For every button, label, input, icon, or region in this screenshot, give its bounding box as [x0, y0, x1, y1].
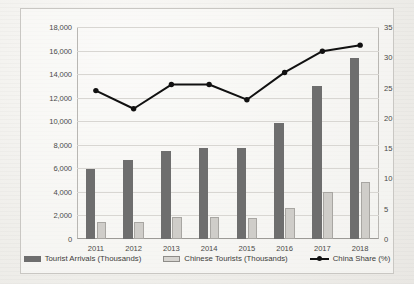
- right-axis-tick-label: 15: [384, 144, 392, 153]
- chart-container: 02,0004,0006,0008,00010,00012,00014,0001…: [20, 8, 394, 274]
- china-share-data-point: [357, 42, 362, 47]
- china-share-data-point: [93, 88, 98, 93]
- china-share-data-point: [244, 97, 249, 102]
- left-axis-tick-label: 2,000: [53, 211, 72, 220]
- right-axis-tick-label: 10: [384, 174, 392, 183]
- light-square-swatch-icon: [163, 256, 180, 262]
- x-axis-tick-label: 2012: [125, 244, 142, 253]
- right-axis-tick-label: 20: [384, 113, 392, 122]
- legend-label-chinese-tourists: Chinese Tourists (Thousands): [184, 254, 287, 263]
- right-axis-tick-label: 35: [384, 23, 392, 32]
- left-axis-tick-label: 0: [68, 235, 72, 244]
- left-axis-tick-label: 8,000: [53, 140, 72, 149]
- left-axis-tick-label: 12,000: [49, 93, 72, 102]
- china-share-polyline: [96, 45, 360, 109]
- legend-item-china-share: China Share (%): [310, 254, 391, 263]
- right-axis-tick-label: 25: [384, 83, 392, 92]
- line-marker-swatch-icon: [310, 255, 329, 262]
- x-axis-tick-label: 2014: [201, 244, 218, 253]
- x-axis-tick-label: 2011: [88, 244, 104, 253]
- chart-legend: Tourist Arrivals (Thousands) Chinese Tou…: [21, 254, 393, 263]
- x-axis-tick-label: 2015: [238, 244, 255, 253]
- right-axis-tick-label: 0: [384, 235, 388, 244]
- right-axis-tick-label: 30: [384, 53, 392, 62]
- china-share-data-point: [131, 106, 136, 111]
- x-axis-tick-label: 2017: [314, 244, 331, 253]
- china-share-data-point: [282, 70, 287, 75]
- left-axis-tick-label: 14,000: [49, 70, 72, 79]
- x-axis-tick-label: 2018: [352, 244, 369, 253]
- china-share-data-point: [320, 49, 325, 54]
- dark-square-swatch-icon: [24, 256, 41, 262]
- left-axis-tick-label: 10,000: [49, 117, 72, 126]
- legend-item-tourist-arrivals: Tourist Arrivals (Thousands): [24, 254, 142, 263]
- legend-label-china-share: China Share (%): [333, 254, 391, 263]
- china-share-line-series: [77, 27, 379, 239]
- left-axis-tick-label: 4,000: [53, 187, 72, 196]
- china-share-data-point: [169, 82, 174, 87]
- x-axis-tick-label: 2013: [163, 244, 180, 253]
- china-share-data-point: [206, 82, 211, 87]
- left-axis-tick-label: 18,000: [49, 23, 72, 32]
- left-axis-tick-label: 16,000: [49, 46, 72, 55]
- legend-item-chinese-tourists: Chinese Tourists (Thousands): [163, 254, 287, 263]
- x-axis-tick-label: 2016: [276, 244, 293, 253]
- left-axis-tick-label: 6,000: [53, 164, 72, 173]
- plot-area: 02,0004,0006,0008,00010,00012,00014,0001…: [77, 27, 379, 239]
- right-axis-tick-label: 5: [384, 204, 388, 213]
- legend-label-tourist-arrivals: Tourist Arrivals (Thousands): [45, 254, 142, 263]
